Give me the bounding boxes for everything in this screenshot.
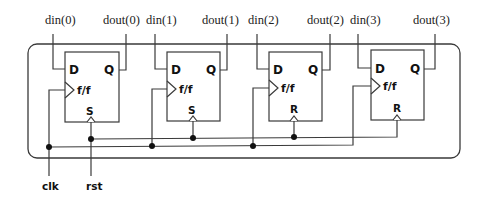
dout-3-label: dout(3) [413,13,450,27]
d-pin-label: D [171,63,181,77]
q-pin-label: Q [308,63,318,77]
dout-1-label: dout(1) [202,13,239,27]
junction-dot [149,143,155,149]
dout-0-label: dout(0) [103,13,140,27]
din-1-label: din(1) [146,13,177,27]
dout-2-wire [322,34,330,70]
din-3-label: din(3) [350,13,381,27]
junction-dot [250,143,256,149]
flipflop-0: D Q f/f S [65,52,119,122]
din-3-wire [358,34,371,68]
register-diagram: din(0) dout(0) din(1) dout(1) din(2) dou… [0,0,485,197]
rst-net [88,120,397,176]
ff-label: f/f [281,82,295,95]
set-pin-label: S [188,104,196,116]
din-2-label: din(2) [248,13,279,27]
junction-dot [46,144,52,150]
dout-3-wire [424,34,435,69]
junction-dot [88,136,94,142]
q-pin-label: Q [104,63,114,77]
flipflop-3: D Q f/f R [371,50,424,120]
q-pin-label: Q [410,62,420,76]
ff-label: f/f [383,80,397,93]
dout-2-label: dout(2) [307,13,344,27]
set-pin-label: S [86,105,94,117]
d-pin-label: D [375,62,385,76]
reset-pin-label: R [290,103,298,115]
flipflop-1: D Q f/f S [167,52,220,121]
din-2-wire [257,34,269,69]
ff-label: f/f [179,83,193,96]
rst-label: rst [86,180,102,192]
dout-0-wire [119,34,126,70]
clk-label: clk [42,180,60,192]
d-pin-label: D [273,63,283,77]
ff-label: f/f [77,84,91,97]
d-pin-label: D [69,63,79,77]
din-1-wire [155,34,167,69]
din-0-wire [53,34,65,69]
reset-pin-label: R [393,102,401,114]
din-0-label: din(0) [45,13,76,27]
flipflop-2: D Q f/f R [269,52,322,121]
dout-1-wire [220,34,227,70]
junction-dot [291,134,297,140]
q-pin-label: Q [206,63,216,77]
junction-dot [190,135,196,141]
